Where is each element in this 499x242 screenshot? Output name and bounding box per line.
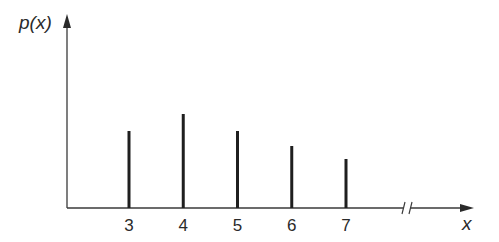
y-axis-arrow-icon <box>63 14 71 28</box>
tick-label-5: 5 <box>233 216 242 235</box>
y-axis-label: p(x) <box>18 12 52 33</box>
tick-label-3: 3 <box>124 216 133 235</box>
tick-labels: 34567 <box>124 216 350 235</box>
probability-mass-chart: 34567 p(x) x <box>0 0 499 242</box>
tick-label-6: 6 <box>287 216 296 235</box>
bars <box>129 114 346 208</box>
tick-label-4: 4 <box>179 216 188 235</box>
tick-label-7: 7 <box>341 216 350 235</box>
x-axis-arrow-icon <box>460 204 474 212</box>
x-axis-label: x <box>461 213 473 234</box>
